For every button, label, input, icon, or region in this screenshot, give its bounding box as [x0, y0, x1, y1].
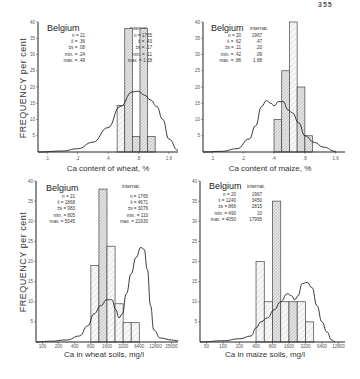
legend-region: Belgium [46, 183, 79, 193]
y-tick-label: 15 [195, 101, 201, 106]
legend-belgium-stat: ±s = .11 [225, 45, 242, 50]
y-tick-label: 5 [197, 133, 200, 138]
legend-belgium-stat: ±s = 866 [218, 204, 236, 209]
x-tick-label: 400 [71, 344, 79, 349]
x-tick-label: .2 [76, 156, 80, 161]
histogram-bar [264, 302, 272, 342]
histogram-bar [281, 302, 289, 342]
legend-internat-stat: 10 [257, 211, 263, 216]
x-axis-label: Ca content of maize, % [229, 164, 312, 173]
histogram-bar [123, 323, 131, 342]
y-tick-label: 10 [192, 299, 198, 304]
histogram-bar [99, 189, 107, 342]
y-axis-label: FREQUENCY per cent [18, 212, 28, 312]
y-tick-label: 20 [195, 85, 201, 90]
histogram-bar [305, 322, 313, 342]
legend-internat-stat: n = 1765 [130, 194, 148, 199]
x-tick-label: .8 [303, 156, 307, 161]
x-tick-label: 1600 [284, 344, 295, 349]
legend-belgium-stat: ±s = .08 [69, 45, 86, 50]
legend-intl-header: internat. [250, 25, 268, 31]
y-tick-label: 40 [195, 20, 201, 25]
histogram-bar [297, 302, 305, 342]
y-tick-label: 10 [195, 117, 201, 122]
y-tick-label: 25 [192, 239, 198, 244]
y-tick-label: 30 [30, 52, 36, 57]
legend-belgium-stat: x̄ = 1240 [218, 198, 236, 203]
histogram-bar [273, 201, 281, 342]
x-tick-label: 6400 [317, 344, 328, 349]
y-tick-label: 20 [30, 85, 36, 90]
legend-internat-stat: 1967 [252, 192, 263, 197]
legend-internat-stat: x̄ = 4671 [130, 200, 148, 205]
legend-belgium-stat: x̄ = .62 [227, 39, 241, 44]
y-tick-label: 40 [30, 20, 36, 25]
x-tick-label: 100 [219, 344, 227, 349]
legend-belgium-stat: max. = 5045 [50, 219, 76, 224]
legend-belgium-stat: max. = .86 [219, 58, 241, 63]
legend-belgium-stat: min. = 805 [53, 213, 75, 218]
legend-belgium-stat: n = 20 [223, 192, 236, 197]
x-tick-label: 400 [252, 344, 260, 349]
figure: FREQUENCY per cent Ca content of wheat, … [0, 0, 360, 379]
legend-belgium-stat: min. = .24 [65, 52, 86, 57]
x-tick-label: 800 [269, 344, 277, 349]
x-tick-label: .1 [210, 156, 214, 161]
legend-region: Belgium [47, 23, 80, 33]
y-axis-label: FREQUENCY per cent [18, 38, 28, 138]
legend-belgium-stat: min. = .42 [221, 52, 242, 57]
legend-internat-stat: max. = 1.68 [128, 58, 153, 63]
y-tick-label: 35 [28, 199, 34, 204]
x-tick-label: .4 [272, 156, 276, 161]
histogram-bar [131, 323, 139, 342]
legend-internat-stat: .20 [256, 45, 263, 50]
x-tick-label: .8 [137, 156, 141, 161]
histogram-bar [274, 120, 282, 153]
y-tick-label: 20 [28, 259, 34, 264]
y-tick-label: 35 [195, 36, 201, 41]
legend-intl-header: internat. [247, 183, 265, 189]
x-tick-label: 12800 [149, 344, 162, 349]
histogram-bar [289, 22, 297, 152]
y-tick-label: 30 [28, 219, 34, 224]
legend-belgium-stat: x̄ = .36 [71, 39, 85, 44]
y-tick-label: 5 [30, 319, 33, 324]
histogram-bar [107, 246, 115, 342]
x-tick-label: 200 [236, 344, 244, 349]
x-tick-label: 1600 [102, 344, 113, 349]
x-tick-label: 1.6 [333, 156, 340, 161]
legend-belgium-stat: min. = 490 [214, 211, 236, 216]
panel-wheat-ca: FREQUENCY per cent Ca content of wheat, … [18, 20, 178, 174]
y-tick-label: 25 [28, 239, 34, 244]
histogram-bar [91, 266, 99, 342]
panel-maize-ca: Ca content of maize, % Belgium internat.… [195, 20, 345, 174]
y-tick-label: 25 [195, 68, 201, 73]
histogram-bar [117, 106, 125, 152]
legend-belgium-stat: n = 21 [62, 194, 75, 199]
x-tick-label: .4 [106, 156, 110, 161]
y-tick-label: 5 [32, 133, 35, 138]
legend-internat-stat: .47 [256, 39, 263, 44]
y-tick-label: 30 [195, 52, 201, 57]
legend-internat-stat: min. = 110 [127, 213, 149, 218]
legend-belgium-stat: max. = .49 [63, 58, 85, 63]
y-tick-label: 10 [30, 117, 36, 122]
histogram-bar [256, 262, 264, 343]
x-tick-label: .2 [241, 156, 245, 161]
legend-internat-stat: x̄ = .43 [138, 39, 152, 44]
legend-region: Belgium [211, 23, 244, 33]
x-tick-label: 3200 [118, 344, 129, 349]
y-tick-label: 30 [192, 219, 198, 224]
histogram-bar [148, 136, 156, 152]
x-axis-label: Ca in maize soils, mg/l [225, 350, 305, 359]
legend-internat-stat: .09 [256, 52, 263, 57]
international-distribution-curve [38, 91, 178, 152]
histogram-bar [132, 136, 140, 152]
y-tick-label: 15 [28, 279, 34, 284]
legend-region: Belgium [209, 181, 242, 191]
y-tick-label: 15 [30, 101, 36, 106]
legend-internat-stat: 2815 [252, 204, 263, 209]
histogram-bar [297, 87, 305, 152]
legend-belgium-stat: max. = 4050 [211, 217, 237, 222]
y-tick-label: 20 [192, 259, 198, 264]
